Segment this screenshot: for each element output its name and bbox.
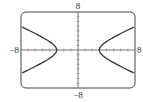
x-min-label: −8 bbox=[9, 45, 19, 55]
graph: 8 −8 −8 8 bbox=[0, 0, 143, 102]
y-max-label: 8 bbox=[76, 1, 81, 11]
y-min-label: −8 bbox=[73, 90, 83, 100]
x-max-label: 8 bbox=[137, 45, 142, 55]
